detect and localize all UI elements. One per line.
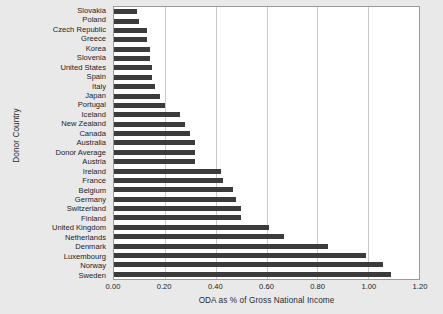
bar — [114, 131, 190, 136]
category-label: Austria — [14, 157, 109, 166]
bar — [114, 244, 328, 249]
bar-row — [114, 35, 419, 44]
bar-row — [114, 129, 419, 138]
gridline — [419, 7, 420, 279]
bar — [114, 159, 195, 164]
bar — [114, 197, 236, 202]
bar — [114, 122, 185, 127]
category-label: United Kingdom — [14, 223, 109, 232]
category-label: Greece — [14, 34, 109, 43]
bar-row — [114, 148, 419, 157]
bar — [114, 187, 233, 192]
bar-row — [114, 223, 419, 232]
bar — [114, 47, 150, 52]
bar-row — [114, 45, 419, 54]
category-label: New Zealand — [14, 119, 109, 128]
bar-row — [114, 91, 419, 100]
bar — [114, 140, 195, 145]
bar-row — [114, 7, 419, 16]
category-label: Slovakia — [14, 6, 109, 15]
category-label: Norway — [14, 261, 109, 270]
category-label: Finland — [14, 214, 109, 223]
category-label: Slovenia — [14, 53, 109, 62]
category-label: Switzerland — [14, 205, 109, 214]
bar — [114, 9, 137, 14]
bar — [114, 262, 383, 267]
category-label-list: SlovakiaPolandCzech RepublicGreeceKoreaS… — [14, 6, 109, 280]
bar — [114, 215, 241, 220]
bar — [114, 150, 195, 155]
bar — [114, 178, 223, 183]
bar-row — [114, 213, 419, 222]
bar-row — [114, 63, 419, 72]
category-label: Donor Average — [14, 148, 109, 157]
x-axis-tick-label: 0.20 — [157, 282, 172, 291]
bar-row — [114, 232, 419, 241]
bar-row — [114, 54, 419, 63]
x-axis-tick-label: 0.80 — [310, 282, 325, 291]
bar-row — [114, 110, 419, 119]
bar-row — [114, 26, 419, 35]
category-label: Denmark — [14, 242, 109, 251]
bar — [114, 272, 391, 277]
bar-row — [114, 101, 419, 110]
category-label: Spain — [14, 72, 109, 81]
category-label: France — [14, 176, 109, 185]
bar — [114, 94, 160, 99]
bar-row — [114, 185, 419, 194]
category-label: Poland — [14, 15, 109, 24]
x-axis-tick-label: 0.60 — [259, 282, 274, 291]
category-label: Korea — [14, 44, 109, 53]
bar — [114, 103, 165, 108]
x-axis-tick-label: 1.00 — [361, 282, 376, 291]
category-label: United States — [14, 63, 109, 72]
bar-row — [114, 82, 419, 91]
category-label: Japan — [14, 91, 109, 100]
bar-row — [114, 157, 419, 166]
category-label: Czech Republic — [14, 25, 109, 34]
category-label: Germany — [14, 195, 109, 204]
category-label: Australia — [14, 138, 109, 147]
bar — [114, 56, 150, 61]
bar — [114, 84, 155, 89]
bar — [114, 37, 147, 42]
category-label: Portugal — [14, 101, 109, 110]
category-label: Sweden — [14, 271, 109, 280]
bars-layer — [114, 7, 419, 279]
bar — [114, 253, 366, 258]
category-label: Luxembourg — [14, 252, 109, 261]
bar — [114, 19, 139, 24]
bar-row — [114, 204, 419, 213]
bar-row — [114, 195, 419, 204]
bar-row — [114, 166, 419, 175]
x-axis-tick-label: 1.20 — [413, 282, 428, 291]
category-label: Canada — [14, 129, 109, 138]
bar-chart: Donor Country SlovakiaPolandCzech Republ… — [0, 0, 443, 314]
plot-area — [113, 6, 420, 280]
bar-row — [114, 138, 419, 147]
bar — [114, 28, 147, 33]
category-label: Belgium — [14, 186, 109, 195]
x-axis-title: ODA as % of Gross National Income — [113, 296, 420, 305]
bar-row — [114, 176, 419, 185]
bar-row — [114, 120, 419, 129]
bar — [114, 65, 152, 70]
bar-row — [114, 260, 419, 269]
x-axis-tick-label: 0.00 — [106, 282, 121, 291]
x-axis-tick-labels: 0.000.200.400.600.801.001.20 — [113, 282, 420, 294]
bar-row — [114, 241, 419, 250]
bar — [114, 169, 221, 174]
category-label: Netherlands — [14, 233, 109, 242]
bar — [114, 225, 269, 230]
bar-row — [114, 270, 419, 279]
bar-row — [114, 73, 419, 82]
x-axis-tick-label: 0.40 — [208, 282, 223, 291]
bar-row — [114, 251, 419, 260]
category-label: Ireland — [14, 167, 109, 176]
bar — [114, 234, 284, 239]
category-label: Iceland — [14, 110, 109, 119]
category-label: Italy — [14, 82, 109, 91]
bar — [114, 112, 180, 117]
bar — [114, 75, 152, 80]
bar — [114, 206, 241, 211]
